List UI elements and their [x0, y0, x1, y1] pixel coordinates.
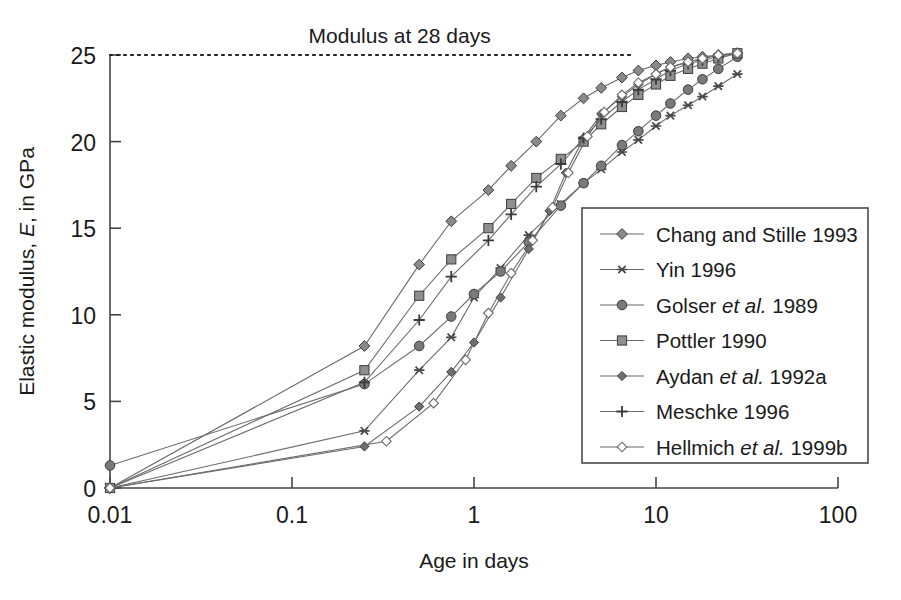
marker-asterisk — [446, 334, 456, 341]
marker-asterisk — [633, 136, 643, 143]
legend: Chang and Stille 1993Yin 1996Golser et a… — [582, 208, 868, 463]
legend-item-label: Hellmich et al. 1999b — [656, 436, 847, 459]
marker-circle — [414, 341, 424, 351]
y-tick-label: 20 — [70, 130, 96, 156]
marker-circle — [446, 312, 456, 322]
marker-diamond — [578, 93, 589, 104]
legend-item-label: Aydan et al. 1992a — [656, 365, 827, 388]
marker-circle — [496, 267, 506, 277]
marker-diamond — [633, 65, 644, 76]
marker-circle — [469, 289, 479, 299]
marker-asterisk — [683, 102, 693, 109]
marker-circle — [714, 64, 724, 74]
marker-asterisk — [414, 367, 424, 374]
marker-circle — [634, 126, 644, 136]
reference-line-28-days: Modulus at 28 days — [110, 24, 633, 55]
x-tick-label: 0.1 — [276, 502, 308, 528]
marker-circle — [596, 161, 606, 171]
marker-diamond-small — [360, 442, 369, 451]
elastic-modulus-vs-age-chart: 0.010.11101000510152025 Modulus at 28 da… — [0, 0, 901, 600]
marker-diamond — [617, 72, 628, 83]
y-tick-label: 10 — [70, 303, 96, 329]
marker-circle — [651, 111, 661, 121]
marker-asterisk — [359, 427, 369, 434]
x-tick-label: 10 — [643, 502, 669, 528]
marker-circle — [579, 178, 589, 188]
marker-circle — [666, 99, 676, 109]
marker-diamond — [596, 83, 607, 94]
y-tick-label: 0 — [83, 476, 96, 502]
marker-square — [484, 224, 493, 233]
x-tick-label: 1 — [468, 502, 481, 528]
marker-square — [617, 336, 626, 345]
marker-square — [507, 199, 516, 208]
marker-asterisk — [713, 82, 723, 89]
y-tick-label: 5 — [83, 389, 96, 415]
marker-asterisk — [651, 122, 661, 129]
y-axis-title: Elastic modulus, E, in GPa — [15, 147, 38, 396]
marker-circle — [105, 461, 115, 471]
marker-circle — [617, 140, 627, 150]
marker-square — [415, 291, 424, 300]
legend-item-label: Pottler 1990 — [656, 329, 767, 352]
marker-square — [360, 366, 369, 375]
marker-circle — [683, 85, 693, 95]
marker-circle — [617, 300, 627, 310]
marker-asterisk — [697, 93, 707, 100]
modulus-28days-label: Modulus at 28 days — [309, 24, 491, 47]
marker-square — [447, 255, 456, 264]
marker-circle — [556, 201, 566, 211]
marker-diamond-open — [484, 308, 494, 318]
y-tick-label: 25 — [70, 43, 96, 69]
marker-circle — [698, 74, 708, 84]
marker-diamond — [359, 341, 370, 352]
legend-item-label: Yin 1996 — [656, 258, 736, 281]
legend-item-label: Golser et al. 1989 — [656, 294, 818, 317]
x-tick-label: 0.01 — [88, 502, 133, 528]
marker-asterisk — [665, 112, 675, 119]
legend-item-label: Meschke 1996 — [656, 400, 789, 423]
marker-diamond — [414, 259, 425, 270]
marker-diamond-open — [461, 355, 471, 365]
x-axis-title: Age in days — [419, 549, 529, 572]
chart-root: 0.010.11101000510152025 Modulus at 28 da… — [0, 0, 901, 600]
legend-item-label: Chang and Stille 1993 — [656, 223, 858, 246]
marker-asterisk — [732, 70, 742, 77]
x-tick-label: 100 — [819, 502, 857, 528]
y-tick-label: 15 — [70, 216, 96, 242]
marker-diamond-open — [506, 268, 516, 278]
